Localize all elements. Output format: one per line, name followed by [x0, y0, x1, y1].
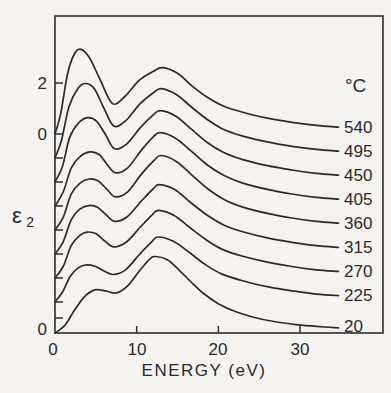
x-tick-label-20: 20: [209, 340, 228, 359]
spectra-chart-canvas: 54049545040536031527022520 2 0 0 ε 2 0 1…: [0, 0, 391, 393]
temperature-labels: 54049545040536031527022520: [344, 118, 372, 336]
temp-label-20: 20: [344, 317, 363, 336]
temp-label-360: 360: [344, 214, 372, 233]
figure: 54049545040536031527022520 2 0 0 ε 2 0 1…: [0, 0, 391, 393]
temp-label-495: 495: [344, 142, 372, 161]
temp-label-225: 225: [344, 286, 372, 305]
x-tick-label-0: 0: [48, 340, 57, 359]
epsilon-subscript: 2: [26, 214, 34, 230]
x-tick-label-30: 30: [291, 340, 310, 359]
y-scale-label-0-top: 0: [38, 125, 47, 144]
temp-label-270: 270: [344, 262, 372, 281]
temp-label-450: 450: [344, 166, 372, 185]
y-scale-label-0-bottom: 0: [38, 320, 47, 339]
temp-label-540: 540: [344, 118, 372, 137]
x-axis-title: ENERGY (eV): [142, 361, 267, 380]
y-scale-label-2: 2: [38, 74, 47, 93]
temp-label-405: 405: [344, 190, 372, 209]
temperature-unit-header: °C: [345, 75, 366, 96]
paper-background: [0, 0, 391, 393]
epsilon-glyph: ε: [12, 203, 22, 228]
temp-label-315: 315: [344, 238, 372, 257]
x-tick-label-10: 10: [128, 340, 147, 359]
